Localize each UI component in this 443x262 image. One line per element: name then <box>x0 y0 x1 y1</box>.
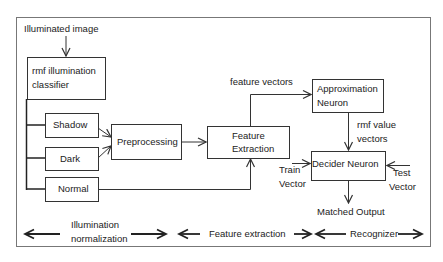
normal-label: Normal <box>58 182 89 196</box>
feature-vectors-label: feature vectors <box>230 75 293 88</box>
test-label-line1: Test <box>393 166 410 179</box>
feature-extraction-label-line1: Feature <box>232 129 265 143</box>
matched-output-label: Matched Output <box>317 205 385 218</box>
stage-recognizer: Recognizer <box>350 227 398 240</box>
train-label-line2: Vector <box>279 177 306 190</box>
shadow-label: Shadow <box>53 118 87 132</box>
normal-to-feature-arrow <box>98 159 251 190</box>
rmf-value-label-line2: vectors <box>357 132 388 145</box>
feature-vectors-arrow <box>251 95 312 127</box>
classifier-label-line2: classifier <box>32 78 69 92</box>
dark-to-preprocessing-arrow <box>98 146 111 158</box>
approximation-label-line1: Approximation <box>317 82 378 96</box>
shadow-to-preprocessing-arrow <box>98 128 111 137</box>
preprocessing-label: Preprocessing <box>117 135 178 149</box>
approximation-label-line2: Neuron <box>317 96 348 110</box>
input-label: Illuminated image <box>24 22 98 35</box>
stage-illumination-line1: Illumination <box>71 218 119 231</box>
stage-feature-extraction: Feature extraction <box>209 227 286 240</box>
decider-label: Decider Neuron <box>312 157 379 171</box>
feature-extraction-label-line2: Extraction <box>232 142 274 156</box>
classifier-label-line1: rmf illumination <box>32 64 96 78</box>
test-label-line2: Vector <box>389 180 416 193</box>
stage-illumination-line2: normalization <box>71 232 128 245</box>
train-label-line1: Train <box>279 163 300 176</box>
rmf-value-label-line1: rmf value <box>357 118 396 131</box>
dark-label: Dark <box>60 152 80 166</box>
